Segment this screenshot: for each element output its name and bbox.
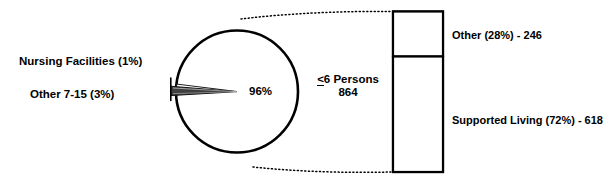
pie-label-main-percent: 96% [249,85,272,98]
bar-label-other: Other (28%) - 246 [452,29,542,42]
chart-container: Nursing Facilities (1%) Other 7-15 (3%) … [0,0,613,181]
bar-label-supported-living: Supported Living (72%) - 618 [452,114,603,127]
bar-total-callout: <6 Persons 864 [316,73,380,99]
bar-total-callout-persons: 6 Persons [324,73,379,85]
bar-total-callout-line1: <6 Persons [316,73,380,86]
pie-label-nursing-facilities: Nursing Facilities (1%) [19,55,142,68]
bar-total-callout-count: 864 [316,86,380,99]
bar-segment-supported-living [393,57,443,173]
bar-segment-other [393,12,443,57]
less-than-or-equal-icon: < [317,74,324,86]
pie-label-other-7-15: Other 7-15 (3%) [30,88,114,101]
